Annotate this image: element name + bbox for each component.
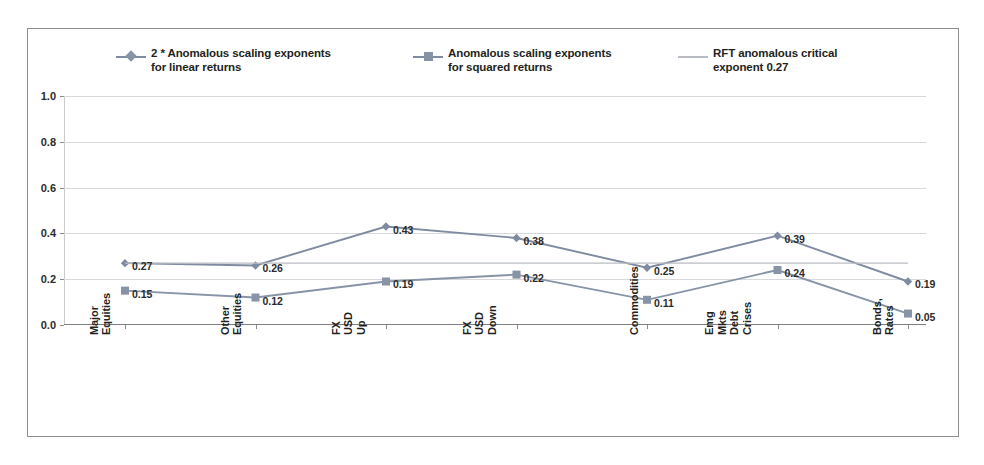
x-axis-tick-mark xyxy=(125,325,126,329)
x-axis-tick-mark xyxy=(256,325,257,329)
x-axis-category-label: Commodities xyxy=(628,266,641,335)
chart-frame: 2 * Anomalous scaling exponents for line… xyxy=(27,28,959,437)
data-point-label: 0.24 xyxy=(785,267,805,279)
legend-label-linear-returns: 2 * Anomalous scaling exponents for line… xyxy=(151,47,331,74)
data-point-label: 0.38 xyxy=(524,235,544,247)
legend-marker-diamond-icon xyxy=(116,50,146,64)
x-axis-tick-mark xyxy=(386,325,387,329)
series-marker-square xyxy=(643,296,651,304)
x-axis-tick-mark xyxy=(647,325,648,329)
x-axis-category-label: FX USD Up xyxy=(330,312,368,335)
data-point-label: 0.15 xyxy=(132,288,152,300)
series-marker-diamond xyxy=(643,264,651,272)
data-point-label: 0.43 xyxy=(393,224,413,236)
data-point-label: 0.39 xyxy=(785,233,805,245)
plot-area: 0.00.20.40.60.81.0 0.270.260.430.380.250… xyxy=(64,96,926,325)
x-axis-category-label: FX USD Down xyxy=(460,305,498,335)
x-axis-tick-mark xyxy=(517,325,518,329)
data-point-label: 0.25 xyxy=(654,265,674,277)
data-point-label: 0.12 xyxy=(263,295,283,307)
y-axis-tick-label: 1.0 xyxy=(41,90,56,102)
x-axis-category-label: Emg Mkts Debt Crises xyxy=(703,302,753,335)
series-marker-diamond xyxy=(773,231,781,239)
y-axis-tick-mark xyxy=(60,325,64,326)
x-axis-tick-mark xyxy=(908,325,909,329)
data-point-label: 0.19 xyxy=(393,278,413,290)
series-marker-diamond xyxy=(904,277,912,285)
legend-marker-line-icon xyxy=(678,50,708,64)
legend-item-rft-critical-exponent[interactable]: RFT anomalous critical exponent 0.27 xyxy=(678,47,837,74)
data-point-label: 0.22 xyxy=(524,272,544,284)
series-marker-square xyxy=(382,277,390,285)
data-point-label: 0.05 xyxy=(915,311,935,323)
y-axis-tick-label: 0.4 xyxy=(41,227,56,239)
series-marker-square xyxy=(121,287,129,295)
series-marker-square xyxy=(513,271,521,279)
legend-label-rft-critical-exponent: RFT anomalous critical exponent 0.27 xyxy=(713,47,837,74)
series-marker-square xyxy=(252,294,260,302)
x-axis-category-label: Other Equities xyxy=(218,293,243,335)
legend-item-squared-returns[interactable]: Anomalous scaling exponents for squared … xyxy=(413,47,611,74)
data-point-label: 0.11 xyxy=(654,297,674,309)
series-layer xyxy=(64,96,926,325)
legend-label-squared-returns: Anomalous scaling exponents for squared … xyxy=(448,47,611,74)
y-axis-tick-label: 0.6 xyxy=(41,182,56,194)
series-marker-diamond xyxy=(382,222,390,230)
data-point-label: 0.19 xyxy=(915,278,935,290)
y-axis-tick-label: 0.0 xyxy=(41,319,56,331)
series-marker-square xyxy=(904,310,912,318)
series-marker-square xyxy=(774,266,782,274)
chart-legend: 2 * Anomalous scaling exponents for line… xyxy=(28,43,958,91)
y-axis-tick-label: 0.8 xyxy=(41,136,56,148)
y-axis-tick-label: 0.2 xyxy=(41,273,56,285)
x-axis-category-label: Major Equities xyxy=(88,293,113,335)
data-point-label: 0.27 xyxy=(132,260,152,272)
series-marker-diamond xyxy=(512,234,520,242)
x-axis-tick-mark xyxy=(778,325,779,329)
x-axis-category-label: Bonds, Rates xyxy=(871,298,896,335)
legend-marker-square-icon xyxy=(413,50,443,64)
legend-item-linear-returns[interactable]: 2 * Anomalous scaling exponents for line… xyxy=(116,47,331,74)
data-point-label: 0.26 xyxy=(263,262,283,274)
